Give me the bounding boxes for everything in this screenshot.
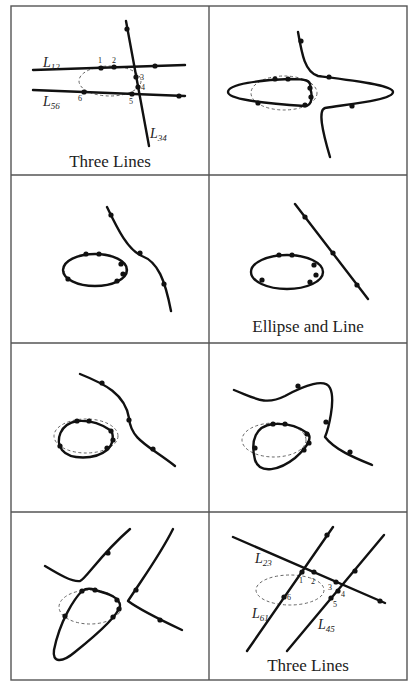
line-l34 — [126, 21, 149, 146]
ellipse — [251, 255, 323, 289]
point-label-2: 2 — [112, 56, 116, 65]
closed-loop — [253, 424, 309, 469]
label-l61: L61 — [251, 606, 269, 623]
panel-curve-2 — [228, 32, 393, 157]
panel-curve-7 — [45, 529, 182, 660]
point-label-3: 3 — [328, 583, 332, 592]
panel-three-lines-top: L12 L56 L34 1 2 3 4 5 6 Three Lines — [33, 21, 185, 171]
point-label-3: 3 — [140, 73, 144, 82]
label-l12: L12 — [42, 55, 60, 72]
point-label-2: 2 — [311, 577, 315, 586]
branch-right — [128, 529, 182, 630]
label-l45: L45 — [317, 617, 335, 634]
point-label-1: 1 — [98, 56, 102, 65]
point-label-6: 6 — [78, 94, 82, 103]
line-l61 — [247, 527, 333, 651]
caption: Three Lines — [267, 656, 349, 675]
line-l56 — [33, 90, 185, 96]
line-l23 — [233, 537, 385, 603]
point-label-6: 6 — [287, 593, 291, 602]
closed-oval — [228, 79, 312, 106]
point-label-5: 5 — [129, 97, 133, 106]
caption: Three Lines — [69, 152, 151, 171]
caption: Ellipse and Line — [252, 317, 363, 336]
closed-loop — [54, 589, 120, 660]
panel-three-lines-bottom: L23 L61 L45 1 2 3 4 5 6 Three Lines — [233, 527, 385, 675]
point-label-1: 1 — [299, 576, 303, 585]
panel-curve-6 — [234, 383, 372, 469]
branch-upper-left — [45, 529, 130, 581]
label-l56: L56 — [42, 94, 60, 111]
closed-oval — [59, 421, 113, 458]
panel-curve-5 — [54, 374, 175, 466]
figure-grid: L12 L56 L34 1 2 3 4 5 6 Three Lines — [0, 0, 417, 687]
point-label-4: 4 — [141, 83, 145, 92]
panel-ellipse-and-line: Ellipse and Line — [251, 204, 368, 336]
label-l34: L34 — [149, 126, 167, 143]
line-l45 — [287, 535, 384, 651]
point-label-4: 4 — [341, 590, 345, 599]
point-label-5: 5 — [333, 600, 337, 609]
panel-curve-3 — [63, 207, 171, 311]
